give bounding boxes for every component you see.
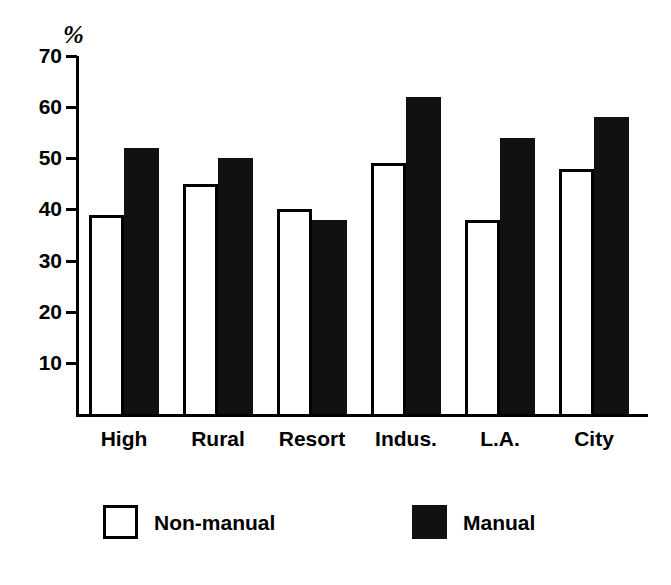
- y-tick-label-text: 20: [20, 301, 62, 322]
- legend-item-manual: Manual: [412, 505, 535, 539]
- x-label-city: City: [547, 428, 641, 449]
- y-tick-label-text: 10: [20, 352, 62, 373]
- bar-group-resort: [277, 56, 347, 414]
- y-tick-label-text: 70: [20, 45, 62, 66]
- bar-manual-high: [124, 148, 159, 414]
- legend-swatch-manual: [412, 505, 447, 539]
- bar-manual-rural: [218, 158, 253, 414]
- bar-manual-indus: [406, 97, 441, 414]
- bar-manual-resort: [312, 220, 347, 414]
- percent-axis-label: %: [63, 22, 84, 47]
- y-tick-label-70: 70: [16, 45, 62, 67]
- legend-label: Manual: [463, 512, 535, 533]
- bar-nonmanual-la: [465, 220, 500, 414]
- bar-nonmanual-resort: [277, 209, 312, 414]
- y-tick-label-60: 60: [16, 96, 62, 118]
- bar-nonmanual-indus: [371, 163, 406, 414]
- x-label-la: L.A.: [453, 428, 547, 449]
- legend-item-nonmanual: Non-manual: [103, 505, 275, 539]
- legend-swatch-nonmanual: [103, 505, 138, 539]
- x-label-indus: Indus.: [359, 428, 453, 449]
- bar-group-indus: [371, 56, 441, 414]
- bar-manual-city: [594, 117, 629, 414]
- bar-nonmanual-high: [89, 215, 124, 414]
- y-tick-label-text: 50: [20, 147, 62, 168]
- y-tick-label-10: 10: [16, 352, 62, 374]
- bar-manual-la: [500, 138, 535, 414]
- y-tick-label-20: 20: [16, 301, 62, 323]
- bar-chart: % 70605040302010 HighRuralResortIndus.L.…: [0, 0, 671, 585]
- chart-legend: Non-manualManual: [0, 505, 671, 555]
- y-tick-label-text: 40: [20, 198, 62, 219]
- x-label-resort: Resort: [265, 428, 359, 449]
- bar-group-la: [465, 56, 535, 414]
- bar-nonmanual-city: [559, 169, 594, 414]
- x-label-rural: Rural: [171, 428, 265, 449]
- y-tick-label-text: 60: [20, 96, 62, 117]
- y-tick-label-50: 50: [16, 147, 62, 169]
- y-tick-label-text: 30: [20, 250, 62, 271]
- x-label-high: High: [77, 428, 171, 449]
- bar-group-rural: [183, 56, 253, 414]
- legend-label: Non-manual: [154, 512, 275, 533]
- bar-group-high: [89, 56, 159, 414]
- bar-group-city: [559, 56, 629, 414]
- plot-area: [76, 56, 648, 414]
- y-tick-label-30: 30: [16, 250, 62, 272]
- y-tick-label-40: 40: [16, 198, 62, 220]
- bar-nonmanual-rural: [183, 184, 218, 414]
- x-axis-line: [76, 414, 648, 417]
